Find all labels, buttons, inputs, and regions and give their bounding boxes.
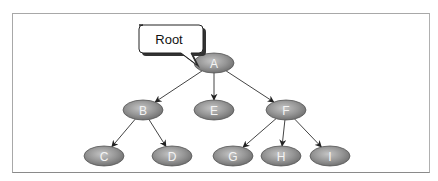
node-B: B xyxy=(123,100,163,120)
node-H: H xyxy=(261,146,301,166)
tree-diagram: ABEFCDGHI Root xyxy=(0,0,438,181)
edge-F-G xyxy=(243,119,276,148)
node-label: A xyxy=(210,57,218,71)
node-label: F xyxy=(282,104,289,118)
root-callout-label: Root xyxy=(155,32,183,47)
node-G: G xyxy=(213,146,253,166)
node-label: D xyxy=(168,150,177,164)
node-label: B xyxy=(139,104,147,118)
edge-A-B xyxy=(155,71,202,102)
edge-A-F xyxy=(226,71,274,102)
edge-F-H xyxy=(282,120,285,146)
node-label: G xyxy=(228,150,237,164)
node-label: C xyxy=(100,150,109,164)
node-C: C xyxy=(84,146,124,166)
node-I: I xyxy=(310,146,350,166)
root-callout: Root xyxy=(139,25,206,68)
node-label: H xyxy=(277,150,286,164)
nodes: ABEFCDGHI xyxy=(84,53,350,166)
node-label: I xyxy=(328,150,331,164)
node-label: E xyxy=(210,104,218,118)
node-D: D xyxy=(152,146,192,166)
node-F: F xyxy=(266,100,306,120)
edge-B-C xyxy=(112,119,135,147)
node-E: E xyxy=(194,100,234,120)
edge-F-I xyxy=(295,119,322,147)
edge-B-D xyxy=(149,120,166,147)
